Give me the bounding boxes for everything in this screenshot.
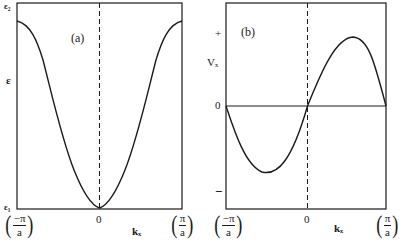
panel-a-xlabel: kₓ	[132, 226, 141, 237]
panel-a-xtick-left: (−πa)	[4, 212, 35, 238]
panel-a-ylabel: ε	[6, 75, 11, 86]
panel-a	[17, 3, 182, 209]
panel-b-velocity-curve	[226, 37, 386, 173]
panel-b-xtick-center: 0	[304, 214, 310, 225]
panel-a-frame	[17, 3, 182, 209]
panel-b-ytick-zero: 0	[215, 100, 221, 111]
panel-b-xtick-left: (−πa)	[213, 212, 244, 238]
panel-b-label: (b)	[241, 26, 255, 38]
panel-b-ylabel: Vₓ	[207, 57, 218, 68]
panel-b-xtick-right: (πa)	[375, 212, 399, 238]
panel-b-xlabel: kₓ	[334, 223, 343, 234]
panel-a-xtick-right: (πa)	[170, 212, 195, 238]
panel-a-label: (a)	[71, 32, 84, 44]
panel-a-ytick-top: ε₂	[4, 2, 11, 11]
panel-a-xtick-center: 0	[96, 214, 102, 225]
panel-b-ytick-minus: −	[215, 185, 222, 198]
panel-b-ytick-plus: +	[215, 28, 221, 39]
figure	[0, 0, 399, 243]
